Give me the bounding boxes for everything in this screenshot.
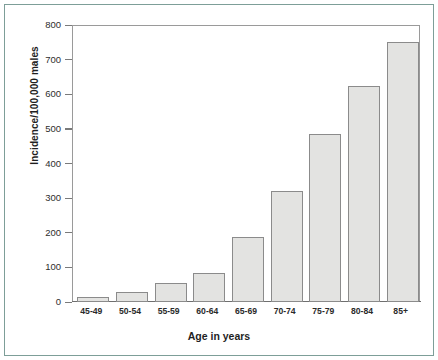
y-tick-label: 200 — [21, 228, 61, 238]
y-tick-label: 800 — [21, 20, 61, 30]
y-tick-label: 400 — [21, 159, 61, 169]
y-tick-mark — [65, 232, 72, 233]
x-tick-label-70-74: 70-74 — [265, 307, 304, 316]
x-tick-label-80-84: 80-84 — [343, 307, 382, 316]
x-tick-label-55-59: 55-59 — [149, 307, 188, 316]
x-tick-label-75-79: 75-79 — [304, 307, 343, 316]
bar-50-54 — [116, 292, 148, 302]
chart-figure: 0100200300400500600700800 45-4950-5455-5… — [0, 0, 438, 360]
bar-85plus — [387, 42, 419, 302]
y-tick-label: 100 — [21, 262, 61, 272]
bar-60-64 — [193, 273, 225, 302]
y-tick-label: 300 — [21, 193, 61, 203]
bar-55-59 — [155, 283, 187, 302]
y-tick-label: 0 — [21, 297, 61, 307]
y-tick-mark — [65, 302, 72, 303]
y-tick-mark — [65, 267, 72, 268]
bar-45-49 — [77, 297, 109, 302]
y-tick-mark — [65, 94, 72, 95]
x-tick-label-65-69: 65-69 — [227, 307, 266, 316]
y-tick-mark — [65, 128, 72, 129]
x-tick-label-85plus: 85+ — [381, 307, 420, 316]
bar-65-69 — [232, 237, 264, 302]
y-tick-mark — [65, 59, 72, 60]
y-tick-label: 700 — [21, 55, 61, 65]
bar-80-84 — [348, 86, 380, 302]
y-tick-mark — [65, 163, 72, 164]
x-tick-label-60-64: 60-64 — [188, 307, 227, 316]
x-tick-label-50-54: 50-54 — [111, 307, 150, 316]
bar-70-74 — [271, 191, 303, 302]
y-axis-title: Incidence/100,000 males — [29, 6, 40, 206]
x-axis-title: Age in years — [0, 330, 438, 342]
y-tick-mark — [65, 198, 72, 199]
y-tick-mark — [65, 25, 72, 26]
bars-layer — [72, 25, 420, 302]
y-tick-label: 600 — [21, 89, 61, 99]
bar-75-79 — [309, 134, 341, 302]
x-tick-label-45-49: 45-49 — [72, 307, 111, 316]
y-tick-label: 500 — [21, 124, 61, 134]
